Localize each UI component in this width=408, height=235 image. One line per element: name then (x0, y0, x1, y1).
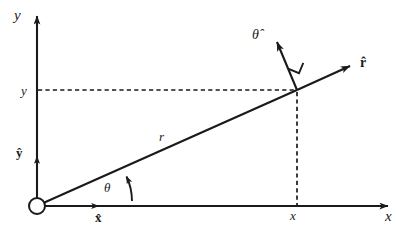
angle-label-theta: θ (104, 181, 110, 194)
x-hat-label: x̂ (95, 211, 102, 224)
theta-hat-vector (277, 42, 297, 90)
x-axis-label: x (385, 209, 392, 224)
y-hat-label: ŷ (16, 146, 23, 159)
y-tick-label: y (21, 84, 27, 97)
r-hat-label: r̂ (360, 56, 366, 70)
origin-circle-marker (29, 198, 45, 214)
y-axis-label: y (14, 8, 21, 23)
x-tick-label: x (290, 209, 296, 222)
right-angle-marker (289, 63, 304, 73)
polar-coordinate-diagram: y x y x r θ r̂ θ̂ x̂ ŷ (0, 0, 408, 235)
radial-line-r (41, 90, 297, 204)
theta-hat-label: θ̂ (252, 28, 259, 42)
theta-angle-arc (127, 177, 133, 202)
radius-label-r: r (159, 130, 164, 143)
r-hat-vector (297, 66, 350, 90)
diagram-canvas (0, 0, 408, 235)
